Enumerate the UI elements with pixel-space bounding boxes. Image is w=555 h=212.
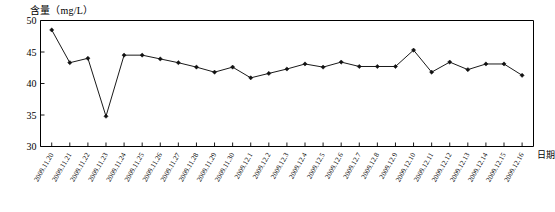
data-point	[448, 60, 452, 64]
data-point	[50, 28, 54, 32]
data-point	[249, 76, 253, 80]
y-tick-label: 50	[27, 15, 37, 26]
data-point	[285, 67, 289, 71]
data-point	[86, 56, 90, 60]
x-axis-labels: 2009.11.202009.11.212009.11.222009.11.23…	[32, 151, 526, 183]
data-point	[158, 57, 162, 61]
data-point	[357, 64, 361, 68]
data-point	[375, 64, 379, 68]
series-polyline	[52, 30, 522, 116]
data-point	[122, 53, 126, 57]
y-tick-label: 45	[27, 47, 37, 58]
data-series	[50, 28, 525, 119]
data-point	[68, 61, 72, 65]
data-point	[339, 60, 343, 64]
y-tick-label: 40	[27, 78, 37, 89]
data-point	[321, 65, 325, 69]
data-point	[484, 62, 488, 66]
data-point	[212, 70, 216, 74]
y-axis-ticks: 3035404550	[27, 15, 45, 152]
x-axis-ticks	[52, 143, 522, 147]
line-chart: 含量（mg/L） 日期 3035404550 2009.11.202009.11…	[0, 0, 555, 212]
data-point	[176, 61, 180, 65]
plot-frame	[41, 21, 534, 147]
y-tick-label: 35	[27, 110, 37, 121]
data-point	[231, 65, 235, 69]
data-point	[466, 68, 470, 72]
y-tick-label: 30	[27, 141, 37, 152]
data-point	[194, 65, 198, 69]
plot-area: 3035404550 2009.11.202009.11.212009.11.2…	[0, 0, 555, 212]
data-point	[104, 114, 108, 118]
data-point	[140, 53, 144, 57]
data-point	[303, 62, 307, 66]
data-point	[267, 71, 271, 75]
